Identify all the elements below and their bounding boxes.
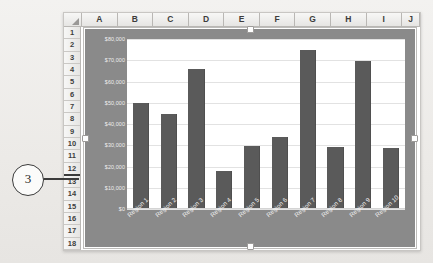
bar-slot xyxy=(183,39,211,209)
spreadsheet-window[interactable]: A B C D E F G H I J 1 2 3 4 5 6 7 8 9 10… xyxy=(63,12,421,251)
row-header-18[interactable]: 18 xyxy=(64,238,80,250)
column-header-h[interactable]: H xyxy=(331,13,367,26)
y-axis-tick-label: $70,000 xyxy=(105,57,125,63)
bar-9[interactable] xyxy=(355,61,371,209)
x-axis-slot: Region 7 xyxy=(294,211,322,249)
y-axis: $80,000$70,000$60,000$50,000$40,000$30,0… xyxy=(87,39,127,209)
row-header-10[interactable]: 10 xyxy=(64,138,80,150)
chart-resize-handle-left[interactable] xyxy=(82,135,89,142)
row-header-column: 1 2 3 4 5 6 7 8 9 10 11 12 13 14 15 16 1… xyxy=(64,27,81,250)
y-axis-tick-label: $20,000 xyxy=(105,164,125,170)
row-header-12[interactable]: 12 xyxy=(64,163,80,176)
x-axis-slot: Region 4 xyxy=(210,211,238,249)
row-header-7[interactable]: 7 xyxy=(64,101,80,113)
callout-leader-line xyxy=(41,178,79,180)
column-header-row: A B C D E F G H I J xyxy=(64,13,420,27)
bar-slot xyxy=(210,39,238,209)
bar-slot xyxy=(238,39,266,209)
row-header-4[interactable]: 4 xyxy=(64,64,80,76)
column-header-i[interactable]: I xyxy=(367,13,403,26)
y-axis-tick-label: $10,000 xyxy=(105,185,125,191)
x-axis-slot: Region 8 xyxy=(322,211,350,249)
select-all-button[interactable] xyxy=(64,13,82,26)
x-axis-slot: Region 3 xyxy=(183,211,211,249)
gridline xyxy=(127,209,405,210)
column-header-b[interactable]: B xyxy=(118,13,154,26)
plot-area xyxy=(127,39,405,209)
row-header-11[interactable]: 11 xyxy=(64,150,80,162)
bar-2[interactable] xyxy=(161,114,177,209)
bar-slot xyxy=(294,39,322,209)
select-all-triangle-icon xyxy=(72,18,79,25)
y-axis-tick-label: $50,000 xyxy=(105,100,125,106)
bar-7[interactable] xyxy=(300,50,316,209)
chart-resize-handle-right[interactable] xyxy=(411,135,418,142)
row-header-2[interactable]: 2 xyxy=(64,39,80,51)
row-header-15[interactable]: 15 xyxy=(64,201,80,213)
bar-slot xyxy=(127,39,155,209)
column-header-f[interactable]: F xyxy=(260,13,296,26)
bar-series xyxy=(127,39,405,209)
bar-slot xyxy=(349,39,377,209)
row-header-6[interactable]: 6 xyxy=(64,89,80,101)
bar-slot xyxy=(266,39,294,209)
chart-resize-handle-top[interactable] xyxy=(247,26,254,33)
chart-resize-handle-bottom[interactable] xyxy=(247,243,254,250)
row-header-9[interactable]: 9 xyxy=(64,126,80,138)
y-axis-tick-label: $0 xyxy=(119,206,125,212)
y-axis-tick-label: $40,000 xyxy=(105,121,125,127)
chart-object[interactable]: $80,000$70,000$60,000$50,000$40,000$30,0… xyxy=(84,28,416,248)
row-header-14[interactable]: 14 xyxy=(64,188,80,200)
bar-1[interactable] xyxy=(133,103,149,209)
row-header-17[interactable]: 17 xyxy=(64,225,80,237)
column-header-d[interactable]: D xyxy=(189,13,225,26)
column-header-e[interactable]: E xyxy=(224,13,260,26)
bar-slot xyxy=(155,39,183,209)
column-header-g[interactable]: G xyxy=(295,13,331,26)
row-header-16[interactable]: 16 xyxy=(64,213,80,225)
x-axis-labels: Region 1Region 2Region 3Region 4Region 5… xyxy=(127,211,405,249)
x-axis-slot: Region 10 xyxy=(377,211,405,249)
bar-slot xyxy=(322,39,350,209)
y-axis-tick-label: $80,000 xyxy=(105,36,125,42)
x-axis-slot: Region 2 xyxy=(155,211,183,249)
callout-badge-3: 3 xyxy=(12,164,44,196)
x-axis-slot: Region 6 xyxy=(266,211,294,249)
bar-slot xyxy=(377,39,405,209)
column-header-a[interactable]: A xyxy=(82,13,118,26)
row-header-3[interactable]: 3 xyxy=(64,52,80,64)
row-header-5[interactable]: 5 xyxy=(64,76,80,88)
column-header-c[interactable]: C xyxy=(153,13,189,26)
column-header-j[interactable]: J xyxy=(402,13,420,26)
y-axis-tick-label: $30,000 xyxy=(105,142,125,148)
x-axis-slot: Region 9 xyxy=(349,211,377,249)
row-header-1[interactable]: 1 xyxy=(64,27,80,39)
page-background: 3 A B C D E F G H I J 1 2 3 4 5 6 7 xyxy=(0,0,433,263)
y-axis-tick-label: $60,000 xyxy=(105,79,125,85)
row-header-8[interactable]: 8 xyxy=(64,113,80,125)
x-axis-slot: Region 1 xyxy=(127,211,155,249)
bar-3[interactable] xyxy=(188,69,204,209)
